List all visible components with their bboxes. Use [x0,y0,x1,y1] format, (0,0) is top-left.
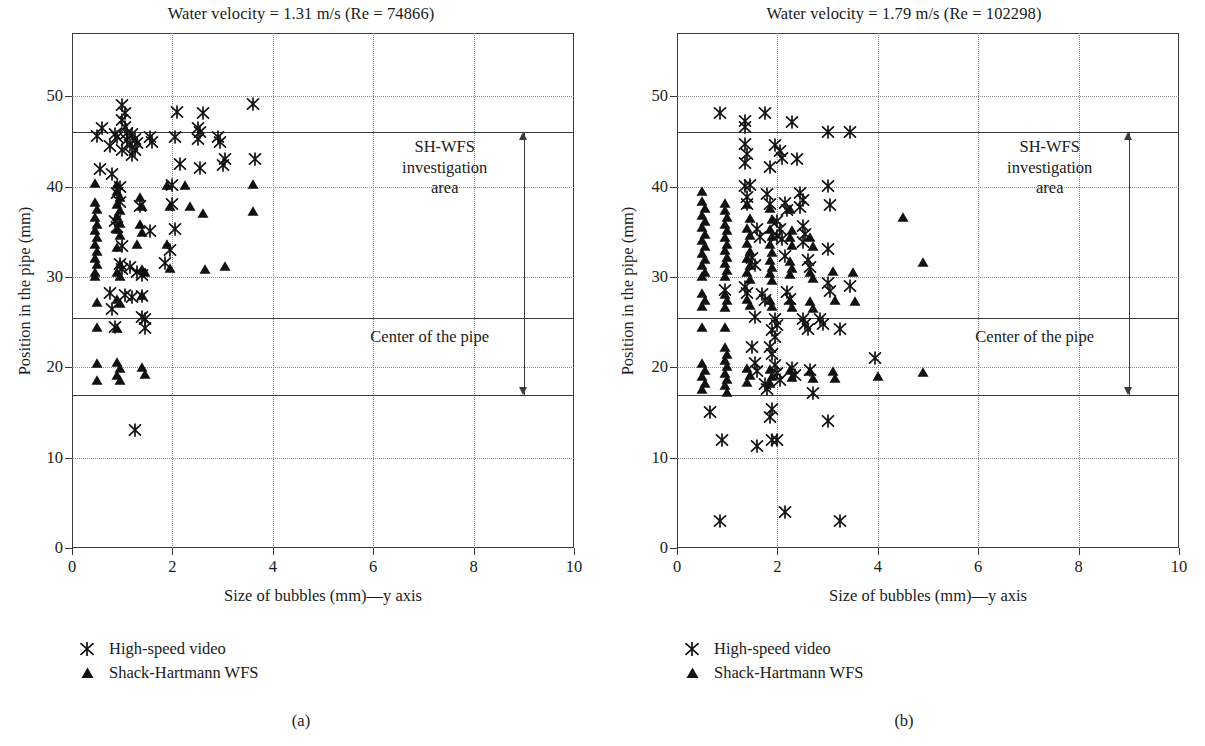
y-tick-label: 20 [652,357,669,377]
data-point-high-speed-video [763,160,776,173]
x-axis-title: Size of bubbles (mm)—y axis [677,586,1179,606]
data-point-shack-hartmann-wfs [744,300,756,311]
data-point-high-speed-video [763,410,776,423]
legend: High-speed videoShack-Hartmann WFS [679,637,864,685]
x-tick-mark [574,548,575,555]
data-point-high-speed-video [196,107,209,120]
sh-wfs-investigation-area-label: SH-WFS investigation area [978,137,1121,198]
data-point-shack-hartmann-wfs [807,373,819,384]
lower-investigation-boundary [677,395,1179,396]
data-point-high-speed-video [758,106,771,119]
data-point-shack-hartmann-wfs [849,296,861,307]
data-point-shack-hartmann-wfs [114,230,126,241]
data-point-shack-hartmann-wfs [131,239,143,250]
data-point-high-speed-video [703,405,716,418]
x-tick-label: 2 [773,557,781,577]
panel-b: Water velocity = 1.79 m/s (Re = 102298)P… [603,0,1205,746]
x-tick-label: 6 [369,557,377,577]
x-tick-label: 8 [469,557,477,577]
sh-wfs-investigation-area-label: SH-WFS investigation area [373,137,516,198]
data-point-high-speed-video [791,153,804,166]
center-of-the-pipe-label: Center of the pipe [948,327,1121,347]
y-tick-label: 50 [47,86,64,106]
legend-item: Shack-Hartmann WFS [679,661,864,685]
legend-item: High-speed video [679,637,864,661]
data-point-shack-hartmann-wfs [91,375,103,386]
data-point-high-speed-video [821,126,834,139]
y-tick-mark [65,458,72,459]
data-point-high-speed-video [821,242,834,255]
panel-a: Water velocity = 1.31 m/s (Re = 74866)Po… [0,0,602,746]
y-tick-mark [670,458,677,459]
data-point-shack-hartmann-wfs [872,371,884,382]
data-point-high-speed-video [844,279,857,292]
data-point-shack-hartmann-wfs [91,357,103,368]
x-tick-mark [978,548,979,555]
y-tick-mark [65,277,72,278]
x-tick-label: 6 [974,557,982,577]
x-tick-mark [677,548,678,555]
arrow-head-up-icon [1124,132,1132,140]
y-tick-mark [670,277,677,278]
upper-investigation-boundary [677,132,1179,133]
panel-sublabel: (a) [0,711,602,731]
data-point-shack-hartmann-wfs [829,373,841,384]
data-point-shack-hartmann-wfs [719,301,731,312]
data-point-high-speed-video [869,352,882,365]
y-tick-mark [65,96,72,97]
data-point-high-speed-video [126,148,139,161]
data-point-high-speed-video [93,162,106,175]
data-point-high-speed-video [173,158,186,171]
data-point-high-speed-video [138,322,151,335]
data-point-shack-hartmann-wfs [114,298,126,309]
y-tick-mark [65,548,72,549]
panel-title: Water velocity = 1.79 m/s (Re = 102298) [603,4,1205,24]
data-point-shack-hartmann-wfs [184,200,196,211]
data-point-shack-hartmann-wfs [136,200,148,211]
data-point-high-speed-video [844,126,857,139]
data-point-high-speed-video [816,317,829,330]
data-point-shack-hartmann-wfs [139,267,151,278]
data-point-high-speed-video [146,136,159,149]
data-point-shack-hartmann-wfs [247,179,259,190]
x-tick-mark [373,548,374,555]
data-point-high-speed-video [834,323,847,336]
data-point-shack-hartmann-wfs [219,261,231,272]
x-tick-label: 10 [566,557,583,577]
data-point-shack-hartmann-wfs [827,265,839,276]
data-point-shack-hartmann-wfs [786,372,798,383]
y-axis-title: Position in the pipe (mm) [14,33,36,548]
data-point-high-speed-video [821,414,834,427]
data-point-shack-hartmann-wfs [719,271,731,282]
data-point-shack-hartmann-wfs [696,301,708,312]
data-point-high-speed-video [171,105,184,118]
y-tick-label: 30 [652,267,669,287]
legend-label: High-speed video [714,639,831,659]
y-tick-label: 10 [47,448,64,468]
data-point-shack-hartmann-wfs [764,377,776,388]
center-of-the-pipe-label: Center of the pipe [343,327,516,347]
data-point-shack-hartmann-wfs [136,226,148,237]
legend: High-speed videoShack-Hartmann WFS [74,637,259,685]
y-tick-label: 50 [652,86,669,106]
x-axis-title: Size of bubbles (mm)—y axis [72,586,574,606]
data-point-high-speed-video [746,340,759,353]
legend-item: Shack-Hartmann WFS [74,661,259,685]
plot-area: SH-WFS investigation areaCenter of the p… [72,33,574,548]
data-point-high-speed-video [91,130,104,143]
data-point-shack-hartmann-wfs [696,321,708,332]
data-point-shack-hartmann-wfs [784,269,796,280]
data-point-high-speed-video [834,514,847,527]
data-point-shack-hartmann-wfs [766,301,778,312]
data-point-shack-hartmann-wfs [807,241,819,252]
data-point-shack-hartmann-wfs [807,302,819,313]
data-point-high-speed-video [249,153,262,166]
data-point-shack-hartmann-wfs [741,376,753,387]
y-tick-label: 30 [47,267,64,287]
x-tick-label: 0 [68,557,76,577]
y-tick-label: 40 [652,177,669,197]
data-point-shack-hartmann-wfs [744,273,756,284]
data-point-shack-hartmann-wfs [199,264,211,275]
data-point-shack-hartmann-wfs [764,203,776,214]
x-tick-mark [72,548,73,555]
